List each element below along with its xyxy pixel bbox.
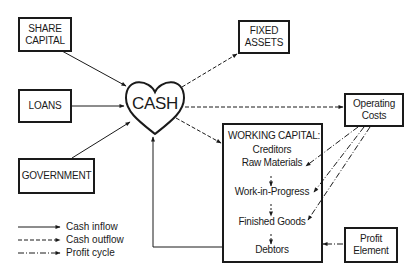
arrow-government-to-cash bbox=[72, 122, 130, 158]
wc-item-debtors: Debtors bbox=[224, 244, 320, 256]
wc-item-finished-goods: Finished Goods bbox=[224, 216, 320, 228]
cash-label: CASH bbox=[127, 94, 183, 114]
arrow-cash-to-fixed-assets bbox=[182, 54, 237, 87]
share-capital-box: SHARE CAPITAL bbox=[18, 17, 72, 52]
arrow-debtors-to-cash bbox=[153, 137, 222, 247]
fixed-assets-box: FIXED ASSETS bbox=[238, 20, 290, 54]
working-capital-title: WORKING CAPITAL: bbox=[228, 130, 320, 142]
profit-element-box: Profit Element bbox=[344, 227, 398, 263]
arrow-cash-to-working-capital bbox=[176, 118, 221, 143]
government-box: GOVERNMENT bbox=[18, 158, 95, 194]
working-capital-box: WORKING CAPITAL: Creditors Raw Materials… bbox=[222, 123, 323, 263]
loans-box: LOANS bbox=[18, 89, 72, 123]
wc-item-creditors: Creditors bbox=[224, 144, 320, 156]
arrow-share-capital-to-cash bbox=[62, 51, 126, 86]
wc-item-work-in-progress: Work-in-Progress bbox=[224, 186, 320, 198]
wc-item-raw-materials: Raw Materials bbox=[224, 157, 320, 169]
operating-costs-box: Operating Costs bbox=[344, 93, 404, 127]
